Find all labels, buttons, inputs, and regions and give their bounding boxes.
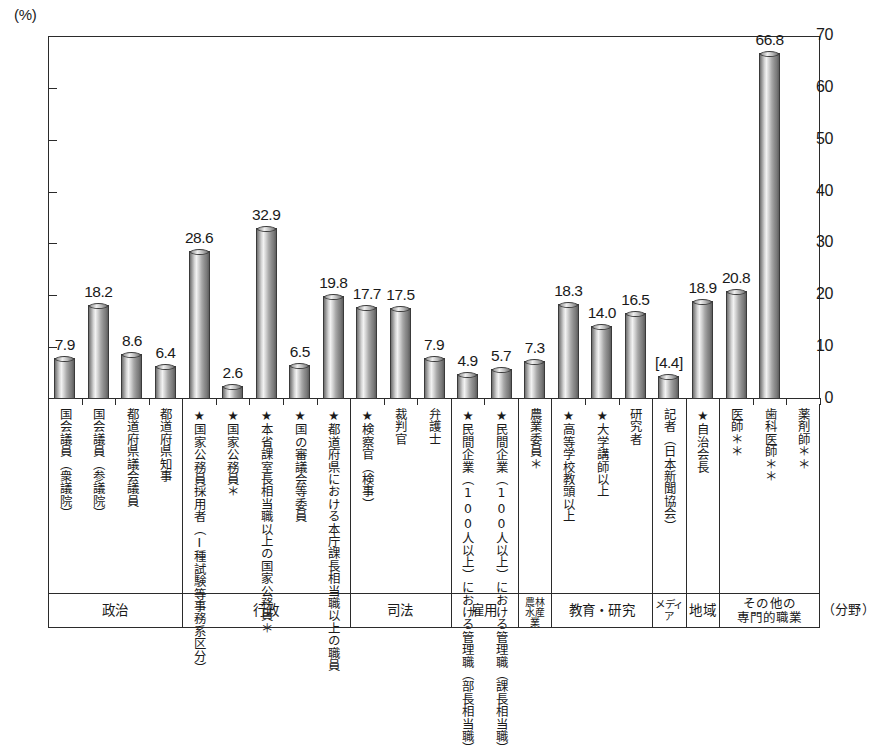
bar-category-label: 都道府県知事 <box>158 408 171 482</box>
bar-category-label: ★都道府県における本庁課長相当職以上の職員 <box>326 408 339 671</box>
bar-body <box>591 326 612 399</box>
bar-category-label: ★国家公務員採用者（Ⅰ種試験等事務系区分） <box>192 408 205 674</box>
bar-category-label: ★検察官（検事） <box>360 408 373 510</box>
bar-category-label: 研究者 <box>628 408 641 445</box>
bar-value-label: 16.5 <box>607 291 663 309</box>
bar-category-label: ★大学講師以上 <box>595 408 608 498</box>
bar-category-label: 歯科医師＊＊ <box>763 408 776 482</box>
field-category-label: その他の専門的職業 <box>719 593 820 628</box>
bar-category-label: 国会議員（衆議院） <box>58 408 71 520</box>
bar-category-label: 弁護士 <box>427 408 440 445</box>
bar-top-ellipse <box>89 303 108 309</box>
bar-body <box>155 366 176 399</box>
bar-top-ellipse <box>190 249 209 255</box>
bar <box>289 365 310 399</box>
bar-body <box>658 376 679 399</box>
field-category-label: 教育・研究 <box>551 593 652 628</box>
bar-value-label: 18.2 <box>70 283 126 301</box>
bar-value-label: 66.8 <box>742 31 798 49</box>
bar-body <box>54 358 75 399</box>
bar-value-label: 7.3 <box>507 339 563 357</box>
bar-value-label: 6.4 <box>137 344 193 362</box>
bar-body <box>491 369 512 399</box>
bar-category-label: ★国家公務員＊ <box>226 408 239 498</box>
bar <box>222 386 243 399</box>
bar-top-ellipse <box>760 51 779 57</box>
bar-body <box>692 301 713 399</box>
y-axis-unit-label: (%) <box>14 6 36 23</box>
bar-category-label: ★自治会長 <box>696 408 709 473</box>
bar-top-ellipse <box>357 305 376 311</box>
bar-body <box>726 291 747 399</box>
bar <box>759 53 780 399</box>
bar-body <box>356 307 377 399</box>
bar-body <box>524 361 545 399</box>
bar-value-label: 7.9 <box>37 336 93 354</box>
bar <box>155 366 176 399</box>
field-category-label: 地域 <box>686 593 720 628</box>
bar <box>658 376 679 399</box>
field-category-label: 雇用 <box>451 593 518 628</box>
field-category-label: 農林水産業 <box>518 560 552 628</box>
field-category-label: 行政 <box>182 593 350 628</box>
bar-top-ellipse <box>257 226 276 232</box>
field-category-label: メディア <box>652 593 686 628</box>
bar-value-label: 17.5 <box>372 286 428 304</box>
bar-top-ellipse <box>223 384 242 390</box>
bar-category-label: 都道府県議会議員 <box>125 408 138 507</box>
bar-category-label: 国会議員（参議院） <box>91 408 104 520</box>
bar-category-label: ★民間企業（100人以上）における管理職（部長相当職） <box>461 408 474 749</box>
bar <box>591 326 612 399</box>
bar-body <box>222 386 243 399</box>
bar-value-label: 6.5 <box>272 343 328 361</box>
bar <box>524 361 545 399</box>
bar-value-label: 2.6 <box>205 364 261 382</box>
bar-top-ellipse <box>659 374 678 380</box>
bar-top-ellipse <box>391 306 410 312</box>
bar-value-label: [4.4] <box>641 354 697 372</box>
field-category-label: 司法 <box>350 593 451 628</box>
bar <box>457 374 478 399</box>
bar-category-label: 裁判官 <box>393 408 406 445</box>
bar-category-label: 記者（日本新聞協会） <box>662 408 675 532</box>
x-tick-mark <box>820 398 821 405</box>
bar <box>726 291 747 399</box>
bar-top-ellipse <box>592 324 611 330</box>
bar-value-label: 20.8 <box>708 269 764 287</box>
bar-body <box>759 53 780 399</box>
bar-top-ellipse <box>156 364 175 370</box>
bar-category-label: 医師＊＊ <box>729 408 742 458</box>
bar-top-ellipse <box>693 299 712 305</box>
bar <box>356 307 377 399</box>
bar-top-ellipse <box>290 363 309 369</box>
bar-category-label: 薬剤師＊＊ <box>796 408 809 470</box>
bar <box>692 301 713 399</box>
field-category-label: 政治 <box>48 593 182 628</box>
bar-category-label: ★民間企業（100人以上）における管理職（課長相当職） <box>494 408 507 749</box>
bar-top-ellipse <box>55 356 74 362</box>
bar <box>491 369 512 399</box>
bar-top-ellipse <box>458 372 477 378</box>
bar-body <box>289 365 310 399</box>
bar-category-label: ★国の審議会等委員 <box>293 408 306 523</box>
bar-value-label: 28.6 <box>171 229 227 247</box>
bar-value-label: 18.3 <box>540 282 596 300</box>
bar-category-label: 農業委員＊ <box>528 408 541 470</box>
bar <box>54 358 75 399</box>
bar-value-label: 32.9 <box>238 206 294 224</box>
bar-body <box>457 374 478 399</box>
bar-category-label: ★高等学校教頭以上 <box>561 408 574 523</box>
